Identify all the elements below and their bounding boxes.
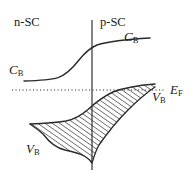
valence-band-hatched-region: [0, 70, 193, 178]
label-vb-left-subscript: B: [34, 147, 40, 157]
label-valence-band-right: VB: [152, 90, 166, 105]
label-p-type-region: p-SC: [100, 16, 126, 29]
label-conduction-band-left: CB: [9, 63, 23, 78]
label-p-sc-text: p-SC: [100, 15, 126, 29]
band-diagram-figure: n-SC p-SC CB CB EF VB VB: [0, 0, 193, 178]
label-vb-left-symbol: V: [26, 141, 34, 156]
label-valence-band-left: VB: [26, 142, 40, 157]
label-cb-left-subscript: B: [18, 68, 24, 78]
label-fermi-level: EF: [170, 83, 183, 98]
label-n-type-region: n-SC: [14, 16, 40, 29]
label-cb-right-symbol: C: [124, 29, 133, 44]
label-ef-subscript: F: [178, 88, 183, 98]
label-vb-right-symbol: V: [152, 89, 160, 104]
label-conduction-band-right: CB: [124, 30, 138, 45]
label-cb-right-subscript: B: [133, 35, 139, 45]
label-ef-symbol: E: [170, 82, 178, 97]
label-vb-right-subscript: B: [160, 95, 166, 105]
label-cb-left-symbol: C: [9, 62, 18, 77]
label-n-sc-text: n-SC: [14, 15, 40, 29]
